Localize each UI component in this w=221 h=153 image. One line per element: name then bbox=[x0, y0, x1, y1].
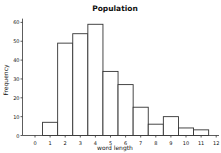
histogram-bar bbox=[118, 85, 133, 136]
x-tick-label: 12 bbox=[213, 140, 219, 146]
y-tick-label: 20 bbox=[13, 95, 19, 101]
bars bbox=[43, 24, 209, 135]
y-tick-label: 40 bbox=[13, 57, 19, 63]
y-axis-label: Frequency bbox=[2, 64, 10, 95]
x-tick-label: 9 bbox=[169, 140, 172, 146]
histogram-bar bbox=[178, 128, 193, 136]
y-tick-label: 10 bbox=[13, 114, 19, 120]
histogram-bar bbox=[194, 130, 209, 136]
y-tick-label: 30 bbox=[13, 76, 19, 82]
histogram-bar bbox=[103, 71, 118, 135]
x-axis-label: word length bbox=[97, 144, 133, 152]
histogram-bar bbox=[88, 24, 103, 135]
x-tick-label: 8 bbox=[154, 140, 157, 146]
x-tick-label: 1 bbox=[49, 140, 52, 146]
y-tick-label: 0 bbox=[16, 133, 19, 139]
x-tick-label: 11 bbox=[198, 140, 204, 146]
histogram-chart: Population 0102030405060 012345678910111… bbox=[0, 0, 221, 153]
x-tick-label: 10 bbox=[183, 140, 189, 146]
histogram-bar bbox=[58, 43, 73, 135]
chart-title: Population bbox=[92, 4, 138, 13]
histogram-bar bbox=[73, 34, 88, 136]
x-tick-label: 3 bbox=[79, 140, 82, 146]
x-tick-label: 0 bbox=[33, 140, 36, 146]
y-tick-label: 50 bbox=[13, 38, 19, 44]
x-tick-label: 7 bbox=[139, 140, 142, 146]
x-tick-label: 2 bbox=[64, 140, 67, 146]
y-axis: 0102030405060 bbox=[13, 19, 22, 139]
histogram-bar bbox=[163, 117, 178, 136]
histogram-bar bbox=[43, 122, 58, 135]
histogram-bar bbox=[133, 107, 148, 135]
histogram-bar bbox=[148, 124, 163, 135]
y-tick-label: 60 bbox=[13, 19, 19, 25]
